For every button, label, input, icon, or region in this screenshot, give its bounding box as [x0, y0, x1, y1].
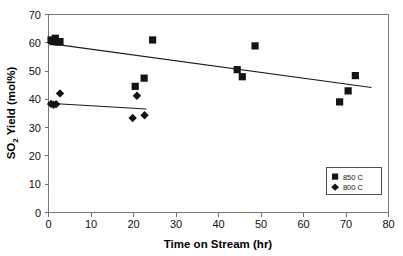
data-point	[239, 73, 246, 80]
data-point	[141, 75, 148, 82]
legend-marker-square-850c	[332, 174, 338, 180]
y-tick-label-30: 30	[29, 122, 41, 134]
x-axis-title: Time on Stream (hr)	[164, 238, 273, 250]
y-tick-label-10: 10	[29, 178, 41, 190]
x-axis: 0 10 20 30 40 50 60 70 80	[45, 213, 394, 231]
series-850-c	[47, 35, 371, 106]
x-tick-label-70: 70	[340, 218, 352, 230]
data-point	[56, 38, 63, 45]
x-tick-label-20: 20	[127, 218, 139, 230]
so2-yield-scatter-chart: 0 10 20 30 40 50 60 70 0 10 2	[0, 0, 403, 256]
data-point	[345, 87, 352, 94]
data-point	[234, 66, 241, 73]
chart-figure: 0 10 20 30 40 50 60 70 0 10 2	[0, 0, 403, 256]
y-axis-ticks	[45, 15, 49, 213]
data-point	[251, 42, 258, 49]
y-tick-label-0: 0	[35, 207, 41, 219]
series-800-c	[47, 89, 149, 122]
legend-label-850c: 850 C	[343, 173, 363, 182]
y-tick-label-60: 60	[29, 37, 41, 49]
svg-text:SO2 Yield (mol%): SO2 Yield (mol%)	[5, 67, 20, 160]
trendline-850-c	[49, 43, 372, 87]
x-tick-label-30: 30	[170, 218, 182, 230]
legend-label-800c: 800 C	[343, 183, 363, 192]
y-axis-title: SO2 Yield (mol%)	[5, 67, 20, 160]
trendline-800-c	[49, 103, 147, 109]
x-axis-ticks	[49, 213, 389, 217]
x-tick-label-10: 10	[85, 218, 97, 230]
x-tick-label-50: 50	[255, 218, 267, 230]
data-point	[140, 111, 148, 119]
x-tick-label-0: 0	[45, 218, 51, 230]
data-point	[352, 72, 359, 79]
y-tick-label-50: 50	[29, 65, 41, 77]
x-tick-label-60: 60	[297, 218, 309, 230]
y-tick-label-20: 20	[29, 150, 41, 162]
data-point	[133, 91, 141, 99]
data-point	[128, 114, 136, 122]
data-series-layer	[47, 35, 372, 123]
x-tick-label-40: 40	[212, 218, 224, 230]
y-axis: 0 10 20 30 40 50 60 70	[29, 9, 49, 219]
y-tick-label-40: 40	[29, 93, 41, 105]
y-axis-title-prefix: SO	[5, 143, 17, 160]
data-point	[149, 36, 156, 43]
chart-legend[interactable]: 850 C 800 C	[327, 168, 382, 195]
data-point	[56, 89, 64, 97]
data-point	[132, 83, 139, 90]
y-tick-label-70: 70	[29, 9, 41, 21]
x-tick-label-80: 80	[382, 218, 394, 230]
y-axis-title-suffix: Yield (mol%)	[5, 67, 17, 139]
data-point	[336, 98, 343, 105]
